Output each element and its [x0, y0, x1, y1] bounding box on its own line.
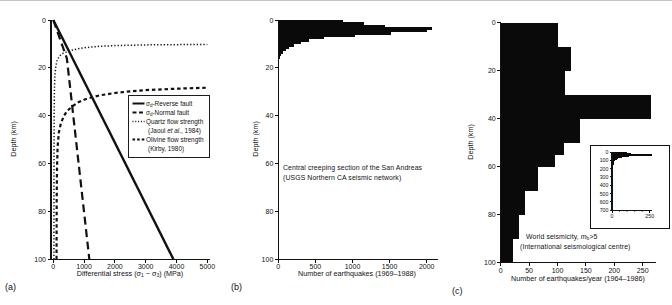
y-tick-label: 200 — [600, 166, 609, 172]
panel-c-annotation-line2: (International seismological centre) — [520, 243, 630, 250]
legend-short-dash-line-swatch — [132, 136, 146, 143]
histogram-bar — [278, 51, 282, 54]
panel-a-legend: σd-Reverse faultσd-Normal faultQuartz fl… — [128, 95, 210, 158]
histogram-bar — [278, 39, 308, 42]
y-tick-label: 100 — [34, 256, 46, 263]
y-tick-label: 80 — [38, 208, 46, 215]
histogram-bar — [501, 143, 564, 155]
y-tick-label: 0 — [269, 17, 273, 24]
y-tick-label: 80 — [488, 211, 496, 218]
annotation-c-part: >5 — [589, 233, 597, 240]
panel-b-tag: (b) — [231, 282, 242, 292]
histogram-bar — [501, 47, 571, 71]
histogram-bar — [501, 71, 566, 95]
legend-label: σd-Reverse fault — [146, 99, 192, 108]
y-tick-label: 80 — [266, 208, 274, 215]
xlabel-a-part: Differential stress (σ — [77, 269, 141, 278]
histogram-bar — [278, 20, 343, 23]
y-tick-label: 300 — [600, 174, 609, 180]
y-tick-label: 40 — [266, 112, 274, 119]
x-tick-label: 2000 — [419, 263, 435, 270]
histogram-bar — [501, 95, 652, 119]
histogram-bar — [278, 34, 354, 37]
x-tick-label: 0 — [611, 213, 614, 219]
y-tick-label: 100 — [600, 157, 609, 163]
y-tick-label: 600 — [600, 199, 609, 205]
y-tick-label: 40 — [38, 112, 46, 119]
x-tick-label: 0 — [499, 267, 503, 274]
y-tick-label: 60 — [266, 160, 274, 167]
histogram-bar — [278, 32, 391, 35]
legend-solid-line-swatch — [132, 100, 146, 107]
legend-label: σd-Normal fault — [146, 108, 189, 117]
histogram-bar — [278, 27, 432, 30]
y-tick-label: 0 — [42, 17, 46, 24]
histogram-bar — [501, 215, 519, 239]
panel-b-xaxis-label: Number of earthquakes (1969–1988) — [298, 269, 416, 278]
panel-c-yaxis-label: Depth (km) — [466, 124, 475, 160]
legend-label-citation: (Jaoul et al., 1984) — [148, 126, 207, 135]
x-tick-label: 5000 — [200, 263, 216, 270]
legend-label: Olivine flow strength — [146, 135, 204, 144]
legend-item: Quartz flow strength — [132, 117, 207, 126]
panel-a-tag: (a) — [5, 282, 16, 292]
legend-item: σd-Normal fault — [132, 108, 207, 117]
y-tick-label: 20 — [488, 67, 496, 74]
panel-c-xaxis-label: Number of earthquakes/year (1964–1986) — [511, 274, 645, 283]
y-tick-label: 60 — [38, 160, 46, 167]
histogram-bar — [278, 46, 289, 49]
x-tick-label: 0 — [51, 263, 55, 270]
panel-a-xaxis-label: Differential stress (σ1 − σ3) (MPa) — [77, 269, 183, 278]
histogram-bar — [278, 22, 363, 25]
legend-label-citation: (Kirby, 1980) — [148, 144, 207, 153]
histogram-bar — [501, 167, 538, 191]
histogram-bar — [278, 42, 300, 45]
panel-b-yaxis-label: Depth (km) — [251, 121, 260, 157]
legend-item: σd-Reverse fault — [132, 99, 207, 108]
annotation-c-part: World seismicity, — [526, 233, 581, 240]
charts-canvas: 0500100015002000020406080100050100150200… — [0, 1, 672, 305]
panel-b-annotation-line1: Central creeping section of the San Andr… — [283, 164, 422, 171]
y-tick-label: 60 — [488, 163, 496, 170]
legend-long-dash-line-swatch — [132, 109, 146, 116]
x-tick-label: 250 — [645, 213, 654, 219]
xlabel-a-part: ) (MPa) — [159, 269, 183, 278]
panel-a-yaxis-label: Depth (km) — [9, 121, 18, 157]
y-tick-label: 0 — [492, 19, 496, 26]
histogram-bar — [501, 191, 525, 215]
y-tick-label: 500 — [600, 191, 609, 197]
strength-seismicity-figure: 0500100015002000020406080100050100150200… — [0, 0, 672, 305]
histogram-bar — [278, 44, 294, 47]
histogram-bar — [501, 239, 513, 263]
xlabel-a-part: − σ — [144, 269, 157, 278]
y-tick-label: 20 — [266, 64, 274, 71]
y-tick-label: 100 — [262, 256, 274, 263]
histogram-bar — [278, 25, 385, 28]
panel-c-annotation-line1: World seismicity, mb>5 — [526, 233, 597, 240]
histogram-bar — [278, 49, 285, 52]
y-tick-label: 100 — [484, 259, 496, 266]
x-tick-label: 0 — [276, 263, 280, 270]
y-tick-label: 700 — [600, 207, 609, 213]
histogram-bar — [501, 23, 558, 47]
legend-dotted-line-swatch — [132, 118, 146, 125]
panel-c-tag: (c) — [452, 286, 463, 296]
panel-b-annotation-line2: (USGS Northern CA seismic network) — [283, 174, 401, 181]
y-tick-label: 400 — [600, 182, 609, 188]
histogram-bar — [278, 37, 324, 40]
legend-label: Quartz flow strength — [146, 117, 203, 126]
histogram-bar — [501, 155, 556, 167]
histogram-bar — [501, 119, 581, 143]
legend-item: Olivine flow strength — [132, 135, 207, 144]
y-tick-label: 40 — [488, 115, 496, 122]
y-tick-label: 20 — [38, 64, 46, 71]
histogram-bar — [278, 30, 426, 33]
y-tick-label: 0 — [605, 149, 608, 155]
